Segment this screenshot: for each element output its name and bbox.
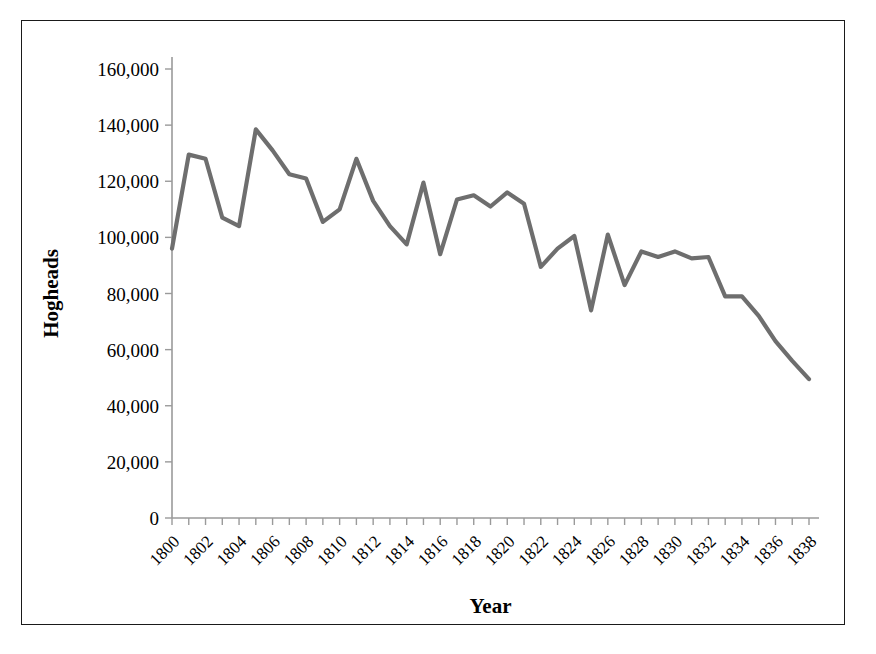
x-tick-label-group: 1800 [146,532,183,569]
figure-frame: 020,00040,00060,00080,000100,000120,0001… [21,20,845,625]
y-tick-label: 60,000 [107,340,159,361]
x-tick-label-group: 1816 [414,532,451,569]
x-tick-label: 1806 [246,532,283,569]
line-chart: 020,00040,00060,00080,000100,000120,0001… [22,21,846,626]
x-tick-label: 1826 [582,532,619,569]
y-tick-label: 100,000 [97,227,159,248]
x-tick-label: 1820 [481,532,518,569]
x-tick-label-group: 1830 [649,532,686,569]
x-tick-label-group: 1818 [448,532,485,569]
y-tick-label: 20,000 [107,452,159,473]
y-tick-label: 160,000 [97,59,159,80]
x-tick-label: 1808 [280,532,317,569]
x-tick-label: 1800 [146,532,183,569]
y-tick-label: 80,000 [107,284,159,305]
data-series-line [172,129,809,379]
y-tick-label: 140,000 [97,115,159,136]
x-tick-label: 1802 [179,532,216,569]
x-tick-label: 1830 [649,532,686,569]
x-tick-label-group: 1806 [246,532,283,569]
x-tick-label-group: 1834 [716,532,754,570]
x-tick-label-group: 1808 [280,532,317,569]
x-tick-label-group: 1836 [749,532,786,569]
x-tick-label: 1816 [414,532,451,569]
x-tick-label: 1838 [783,532,820,569]
x-axis-title: Year [470,594,512,618]
y-tick-label: 120,000 [97,171,159,192]
x-tick-label-group: 1822 [515,532,552,569]
x-tick-label-group: 1820 [481,532,518,569]
x-tick-label: 1832 [682,532,719,569]
x-tick-label: 1812 [347,532,384,569]
x-tick-label: 1804 [213,532,251,570]
x-tick-label-group: 1826 [582,532,619,569]
y-axis-title: Hogheads [39,249,63,338]
x-tick-label: 1824 [548,532,586,570]
x-tick-label-group: 1802 [179,532,216,569]
y-axis-title-group: Hogheads [39,249,63,338]
x-tick-label-group: 1804 [213,532,251,570]
x-tick-label-group: 1824 [548,532,586,570]
x-tick-label: 1814 [381,532,419,570]
x-tick-label-group: 1832 [682,532,719,569]
x-tick-label: 1828 [615,532,652,569]
y-tick-label: 40,000 [107,396,159,417]
x-tick-label: 1834 [716,532,754,570]
x-tick-label-group: 1814 [381,532,419,570]
x-tick-label: 1810 [313,532,350,569]
x-tick-label: 1836 [749,532,786,569]
x-tick-label-group: 1828 [615,532,652,569]
x-tick-label-group: 1812 [347,532,384,569]
x-tick-label-group: 1838 [783,532,820,569]
x-tick-label: 1822 [515,532,552,569]
x-tick-label-group: 1810 [313,532,350,569]
y-tick-label: 0 [150,508,160,529]
x-tick-label: 1818 [448,532,485,569]
